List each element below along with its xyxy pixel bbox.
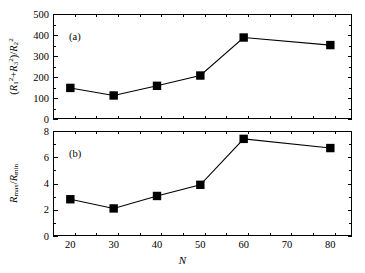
panel-b-plot: 0246820304050607080(b) <box>0 128 365 273</box>
series-line <box>70 38 330 96</box>
y-tick-label: 6 <box>44 152 49 163</box>
series-line <box>70 139 330 209</box>
data-point-marker <box>196 71 204 79</box>
x-tick-label: 50 <box>195 239 206 250</box>
figure-root: 0100200300400500(a) 0246820304050607080(… <box>0 0 365 273</box>
plot-frame <box>54 15 352 119</box>
panel-label: (a) <box>69 31 81 43</box>
data-point-marker <box>326 41 334 49</box>
y-tick-label: 0 <box>44 231 49 242</box>
data-point-marker <box>109 91 117 99</box>
data-point-marker <box>66 84 74 92</box>
y-tick-label: 2 <box>44 204 49 215</box>
x-tick-label: 20 <box>65 239 76 250</box>
y-tick-label: 8 <box>44 128 49 137</box>
y-tick-label: 400 <box>33 30 49 41</box>
data-point-marker <box>326 144 334 152</box>
x-tick-label: 60 <box>238 239 249 250</box>
panel-label: (b) <box>69 148 82 160</box>
y-tick-label: 0 <box>44 114 49 125</box>
y-tick-label: 4 <box>44 178 50 189</box>
panel-b: 0246820304050607080(b) <box>0 128 365 273</box>
data-point-marker <box>66 195 74 203</box>
x-tick-label: 70 <box>282 239 293 250</box>
x-tick-label: 40 <box>152 239 163 250</box>
y-tick-label: 200 <box>33 72 49 83</box>
data-point-marker <box>239 33 247 41</box>
y-axis-title-a-text: (R12+R32)/R22 <box>8 38 19 94</box>
data-point-marker <box>109 204 117 212</box>
panel-a-y-axis-title: (R12+R32)/R22 <box>8 11 21 121</box>
panel-a-plot: 0100200300400500(a) <box>0 0 365 128</box>
data-point-marker <box>239 135 247 143</box>
data-point-marker <box>196 181 204 189</box>
y-axis-title-b-text: Rmax/Rmin <box>8 163 19 202</box>
x-tick-label: 30 <box>108 239 119 250</box>
data-point-marker <box>153 192 161 200</box>
panel-b-y-axis-title: Rmax/Rmin <box>8 143 21 223</box>
panel-a: 0100200300400500(a) <box>0 0 365 128</box>
y-tick-label: 300 <box>33 51 49 62</box>
x-tick-label: 80 <box>325 239 336 250</box>
data-point-marker <box>153 82 161 90</box>
x-axis-title: N <box>0 254 365 266</box>
y-tick-label: 500 <box>33 9 49 20</box>
y-tick-label: 100 <box>33 93 49 104</box>
